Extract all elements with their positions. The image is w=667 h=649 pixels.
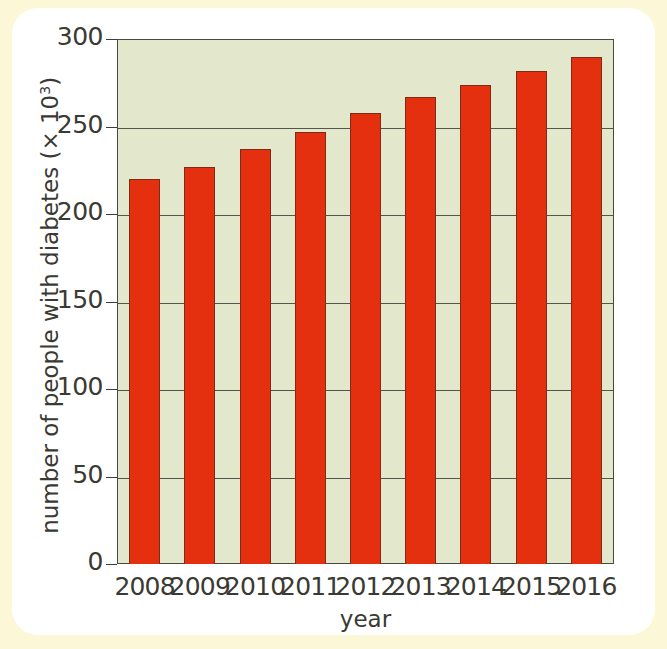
y-axis-title-exponent: 3 xyxy=(37,86,53,95)
y-axis-title-base: number of people with diabetes (× 10 xyxy=(37,95,63,534)
y-tick-mark-300 xyxy=(106,39,117,40)
y-tick-mark-100 xyxy=(106,389,117,390)
y-tick-label-300: 300 xyxy=(3,22,103,51)
bar-2012[interactable] xyxy=(350,113,381,565)
y-tick-mark-50 xyxy=(106,477,117,478)
y-tick-mark-0 xyxy=(106,564,117,565)
bar-series xyxy=(117,39,614,564)
x-tick-label-2016: 2016 xyxy=(543,572,629,601)
bar-2010[interactable] xyxy=(240,149,271,564)
bar-2013[interactable] xyxy=(405,97,436,564)
y-tick-label-0: 0 xyxy=(3,547,103,576)
y-tick-mark-200 xyxy=(106,214,117,215)
bar-2016[interactable] xyxy=(571,57,602,565)
y-axis-title-close: ) xyxy=(37,77,63,86)
y-tick-mark-250 xyxy=(106,127,117,128)
bar-2008[interactable] xyxy=(129,179,160,564)
bar-2011[interactable] xyxy=(295,132,326,564)
bar-2009[interactable] xyxy=(184,167,215,564)
y-tick-mark-150 xyxy=(106,302,117,303)
bar-2015[interactable] xyxy=(516,71,547,565)
bar-2014[interactable] xyxy=(460,85,491,565)
x-axis-title: year xyxy=(117,606,614,632)
figure-root: 050100150200250300 200820092010201120122… xyxy=(0,0,667,649)
y-axis-title: number of people with diabetes (× 103) xyxy=(37,70,64,540)
